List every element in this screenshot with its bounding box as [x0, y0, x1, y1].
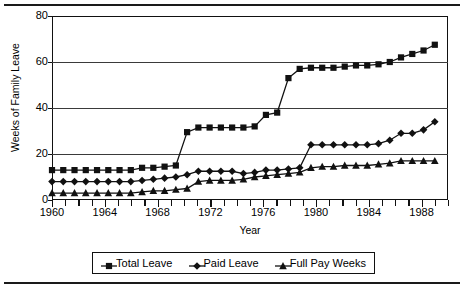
data-point-marker	[330, 65, 336, 71]
x-tick-label: 1972	[190, 206, 230, 218]
data-point-marker	[285, 75, 291, 81]
data-point-marker	[161, 174, 169, 182]
data-point-marker	[228, 167, 236, 175]
data-point-marker	[398, 54, 404, 60]
data-point-marker	[319, 65, 325, 71]
data-point-marker	[59, 178, 67, 186]
data-point-marker	[60, 167, 66, 173]
data-point-marker	[432, 42, 438, 48]
data-point-marker	[161, 164, 167, 170]
data-point-marker	[252, 123, 258, 129]
legend-entry[interactable]: Paid Leave	[189, 257, 259, 269]
y-tick-label: 60	[4, 56, 48, 67]
series-full-pay-weeks	[48, 157, 438, 196]
data-point-marker	[104, 178, 112, 186]
data-point-marker	[318, 141, 326, 149]
data-point-marker	[138, 177, 146, 185]
data-point-marker	[297, 66, 303, 72]
square-marker	[101, 258, 112, 269]
data-point-marker	[342, 64, 348, 70]
data-point-marker	[330, 141, 338, 149]
data-point-marker	[387, 59, 393, 65]
x-tick-label: 1968	[138, 206, 178, 218]
data-point-marker	[408, 130, 416, 138]
legend-entry[interactable]: Full Pay Weeks	[275, 257, 366, 269]
data-point-marker	[82, 178, 90, 186]
diamond-marker	[189, 258, 200, 269]
y-tick-label: 40	[4, 102, 48, 113]
data-point-marker	[71, 178, 79, 186]
triangle-marker	[275, 258, 286, 269]
chart-legend: Total LeavePaid LeaveFull Pay Weeks	[92, 252, 375, 274]
data-point-marker	[150, 176, 158, 184]
series-layer	[52, 16, 448, 200]
data-point-marker	[127, 178, 135, 186]
data-point-marker	[375, 61, 381, 67]
legend-label: Full Pay Weeks	[290, 257, 366, 269]
top-rule	[4, 4, 460, 6]
x-tick-label: 1984	[349, 206, 389, 218]
data-point-marker	[207, 124, 213, 130]
y-tick-label: 80	[4, 10, 48, 21]
data-point-marker	[274, 110, 280, 116]
x-tick-label: 1980	[296, 206, 336, 218]
data-point-marker	[206, 167, 214, 175]
data-point-marker	[184, 129, 190, 135]
x-tick-label: 1976	[243, 206, 283, 218]
legend-label: Paid Leave	[204, 257, 259, 269]
series-total-leave	[49, 42, 438, 174]
x-axis-labels: 19601964196819721976198019841988	[0, 206, 464, 222]
chart-figure: Weeks of Family Leave 806040200 19601964…	[0, 0, 464, 290]
data-point-marker	[263, 112, 269, 118]
data-point-marker	[116, 167, 122, 173]
data-point-marker	[195, 124, 201, 130]
data-point-marker	[183, 171, 191, 179]
x-tick-label: 1988	[402, 206, 442, 218]
data-point-marker	[397, 130, 405, 138]
data-point-marker	[341, 141, 349, 149]
data-point-marker	[49, 167, 55, 173]
data-point-marker	[229, 124, 235, 130]
x-tick-label: 1960	[32, 206, 72, 218]
x-axis-title: Year	[52, 224, 448, 236]
data-point-marker	[409, 51, 415, 57]
data-point-marker	[352, 141, 360, 149]
data-point-marker	[195, 167, 203, 175]
data-point-marker	[363, 141, 371, 149]
data-point-marker	[116, 178, 124, 186]
data-point-marker	[375, 140, 383, 148]
data-point-marker	[48, 178, 56, 186]
y-tick-label: 20	[4, 148, 48, 159]
x-tick-label: 1964	[85, 206, 125, 218]
data-point-marker	[83, 167, 89, 173]
data-point-marker	[307, 141, 315, 149]
legend-label: Total Leave	[116, 257, 172, 269]
data-point-marker	[364, 62, 370, 68]
data-point-marker	[386, 136, 394, 144]
data-point-marker	[172, 173, 180, 181]
data-point-marker	[93, 178, 101, 186]
data-point-marker	[71, 167, 77, 173]
data-point-marker	[94, 167, 100, 173]
data-point-marker	[420, 47, 426, 53]
y-tick-label: 0	[4, 194, 48, 205]
data-point-marker	[218, 124, 224, 130]
plot-area	[52, 16, 448, 200]
data-point-marker	[217, 167, 225, 175]
data-point-marker	[353, 62, 359, 68]
data-point-marker	[173, 162, 179, 168]
data-point-marker	[139, 165, 145, 171]
data-point-marker	[183, 185, 191, 192]
bottom-rule	[4, 282, 460, 284]
y-axis: 806040200	[0, 0, 48, 290]
data-point-marker	[128, 167, 134, 173]
data-point-marker	[105, 167, 111, 173]
legend-entry[interactable]: Total Leave	[101, 257, 172, 269]
data-point-marker	[150, 165, 156, 171]
data-point-marker	[308, 65, 314, 71]
data-point-marker	[240, 124, 246, 130]
